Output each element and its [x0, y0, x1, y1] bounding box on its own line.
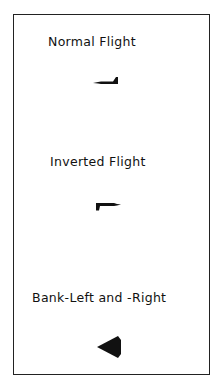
- bank-left-right-label: Bank-Left and -Right: [32, 291, 166, 305]
- diagram-frame: [13, 14, 210, 375]
- inverted-flight-label: Inverted Flight: [50, 155, 146, 169]
- aircraft-inverted-side-view-icon: [95, 201, 123, 213]
- normal-flight-label: Normal Flight: [48, 35, 136, 49]
- aircraft-side-view-icon: [92, 75, 120, 87]
- aircraft-bank-view-icon: [96, 334, 124, 360]
